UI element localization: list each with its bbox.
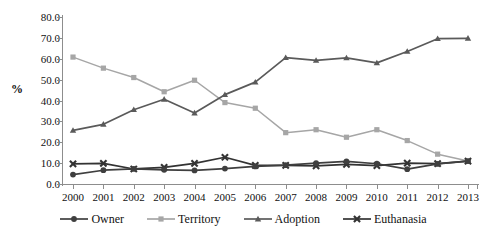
y-axis-tick-label: 40.0 bbox=[20, 96, 60, 107]
series-territory bbox=[70, 54, 470, 163]
y-axis-tick-mark bbox=[57, 38, 62, 39]
series-plot bbox=[0, 0, 486, 241]
legend-label: Adoption bbox=[275, 213, 320, 225]
legend-label: Territory bbox=[178, 213, 220, 225]
y-axis-tick-label: 30.0 bbox=[20, 116, 60, 127]
y-axis-tick-label: 60.0 bbox=[20, 54, 60, 65]
y-axis-tick-mark bbox=[57, 142, 62, 143]
y-axis-tick-label: 20.0 bbox=[20, 137, 60, 148]
y-axis-tick-label: 10.0 bbox=[20, 158, 60, 169]
x-axis-tick-mark bbox=[195, 185, 196, 189]
y-axis-tick-mark bbox=[57, 121, 62, 122]
legend-marker-triangle-icon bbox=[243, 213, 273, 225]
y-axis-tick-mark bbox=[57, 59, 62, 60]
x-axis-tick-mark bbox=[468, 185, 469, 189]
y-axis-tick-labels: 0.010.020.030.040.050.060.070.080.0 bbox=[20, 10, 60, 190]
y-axis-tick-mark bbox=[57, 80, 62, 81]
x-axis-line bbox=[62, 184, 479, 185]
legend-marker-square-icon bbox=[146, 213, 176, 225]
y-axis-tick-label: 0.0 bbox=[20, 179, 60, 190]
series-owner bbox=[70, 158, 471, 177]
legend-label: Owner bbox=[91, 213, 124, 225]
legend-item-adoption[interactable]: Adoption bbox=[243, 213, 320, 225]
y-axis-tick-label: 50.0 bbox=[20, 75, 60, 86]
x-axis-tick-mark bbox=[316, 185, 317, 189]
x-axis-tick-mark bbox=[73, 185, 74, 189]
legend-item-territory[interactable]: Territory bbox=[146, 213, 220, 225]
line-chart: % 0.010.020.030.040.050.060.070.080.0 20… bbox=[0, 0, 486, 241]
x-axis-tick-mark bbox=[346, 185, 347, 189]
y-axis-tick-mark bbox=[57, 163, 62, 164]
legend-item-owner[interactable]: Owner bbox=[59, 213, 124, 225]
x-axis-tick-label: 2013 bbox=[448, 191, 486, 203]
series-adoption bbox=[70, 35, 471, 133]
chart-legend: OwnerTerritoryAdoptionEuthanasia bbox=[0, 213, 486, 225]
series-euthanasia bbox=[70, 154, 471, 172]
x-axis-tick-mark bbox=[477, 185, 478, 189]
y-axis-tick-mark bbox=[57, 17, 62, 18]
x-axis-tick-mark bbox=[286, 185, 287, 189]
x-axis-tick-mark bbox=[134, 185, 135, 189]
legend-label: Euthanasia bbox=[374, 213, 427, 225]
legend-marker-circle-icon bbox=[59, 213, 89, 225]
x-axis-tick-mark bbox=[103, 185, 104, 189]
legend-marker-cross-icon bbox=[342, 213, 372, 225]
x-axis-tick-mark bbox=[164, 185, 165, 189]
x-axis-tick-mark bbox=[255, 185, 256, 189]
x-axis-tick-mark bbox=[377, 185, 378, 189]
y-axis-tick-label: 70.0 bbox=[20, 33, 60, 44]
y-axis-tick-label: 80.0 bbox=[20, 12, 60, 23]
x-axis-tick-mark bbox=[407, 185, 408, 189]
x-axis-tick-mark bbox=[438, 185, 439, 189]
y-axis-tick-mark bbox=[57, 184, 62, 185]
y-axis-line bbox=[62, 15, 63, 186]
x-axis-tick-mark bbox=[225, 185, 226, 189]
legend-item-euthanasia[interactable]: Euthanasia bbox=[342, 213, 427, 225]
y-axis-tick-mark bbox=[57, 101, 62, 102]
